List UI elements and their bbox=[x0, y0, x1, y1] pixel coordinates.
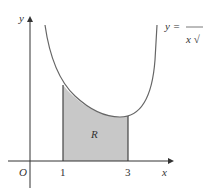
x-axis-arrow-icon bbox=[168, 158, 174, 164]
x-axis-label: x bbox=[161, 166, 167, 178]
origin-label: O bbox=[19, 166, 27, 178]
shaded-region-r bbox=[63, 85, 128, 161]
y-axis-arrow-icon bbox=[27, 16, 33, 22]
curve-label-lhs: y = bbox=[164, 20, 180, 32]
diagram-canvas: y x O 1 3 R y = x √ bbox=[0, 0, 203, 193]
region-label: R bbox=[90, 128, 98, 140]
y-axis-label: y bbox=[18, 12, 24, 24]
curve bbox=[45, 25, 157, 117]
x-tick-1: 1 bbox=[60, 166, 66, 178]
x-tick-3: 3 bbox=[125, 166, 131, 178]
curve-label-denominator: x √ bbox=[185, 33, 201, 45]
